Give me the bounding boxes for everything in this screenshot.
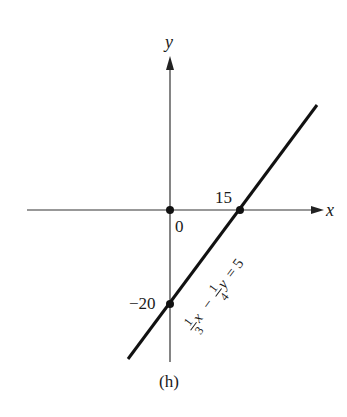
y-intercept-label: −20	[129, 294, 156, 313]
y-intercept-point	[166, 300, 174, 308]
graph-line	[128, 105, 317, 359]
y-axis-label: y	[163, 32, 173, 52]
y-axis-arrow-icon	[166, 56, 174, 70]
graph-figure: x y 0 15 −20 1 3 x − 1 4 y	[0, 0, 347, 417]
equation-minus: −	[199, 296, 217, 312]
x-axis-label: x	[325, 200, 334, 220]
equation-rhs: = 5	[222, 255, 247, 280]
origin-label: 0	[175, 217, 184, 236]
x-axis-arrow-icon	[311, 206, 324, 214]
y-axis: y	[163, 32, 174, 362]
equation-label: 1 3 x − 1 4 y = 5	[179, 253, 253, 339]
origin-point	[166, 206, 174, 214]
x-intercept-point	[236, 206, 244, 214]
x-intercept-label: 15	[215, 188, 232, 207]
equation-frac1-den: 3	[192, 324, 207, 337]
equation-frac2-den: 4	[217, 290, 232, 303]
figure-caption: (h)	[159, 372, 179, 391]
